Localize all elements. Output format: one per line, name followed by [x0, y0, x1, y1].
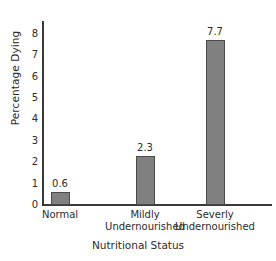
- y-axis-tick-label: 8: [22, 29, 38, 39]
- x-axis-category-label: MildlyUndernourished: [105, 209, 185, 232]
- x-axis-category-label: Normal: [42, 209, 78, 221]
- x-axis-category-label-line: Normal: [42, 209, 78, 221]
- x-axis-category-label-line: Undernourished: [175, 221, 255, 233]
- y-axis-tick-label: 7: [22, 50, 38, 60]
- y-axis-tick-label: 3: [22, 136, 38, 146]
- x-axis-category-label-line: Undernourished: [105, 221, 185, 233]
- bar-value-label: 0.6: [52, 179, 68, 189]
- bar: [51, 192, 70, 205]
- y-axis-tick-label: 4: [22, 114, 38, 124]
- y-axis-tick-label: 1: [22, 179, 38, 189]
- bar: [136, 156, 155, 205]
- bar: [206, 40, 225, 205]
- x-axis-category-label-line: Severly: [175, 209, 255, 221]
- y-axis-tick-label: 0: [22, 200, 38, 210]
- y-axis-tick-labels: 012345678: [22, 0, 38, 261]
- plot-area: 0.62.37.7: [42, 21, 272, 205]
- bar-value-label: 2.3: [137, 143, 153, 153]
- x-axis-category-label-line: Mildly: [105, 209, 185, 221]
- x-axis-category-label: SeverlyUndernourished: [175, 209, 255, 232]
- y-axis-title: Percentage Dying: [9, 18, 21, 138]
- x-axis-title: Nutritional Status: [0, 239, 276, 251]
- bar-chart: Percentage Dying 012345678 0.62.37.7 Nor…: [0, 0, 276, 261]
- bar-value-label: 7.7: [207, 27, 223, 37]
- y-axis-tick-label: 6: [22, 72, 38, 82]
- y-axis-tick-label: 5: [22, 93, 38, 103]
- y-axis-tick-label: 2: [22, 157, 38, 167]
